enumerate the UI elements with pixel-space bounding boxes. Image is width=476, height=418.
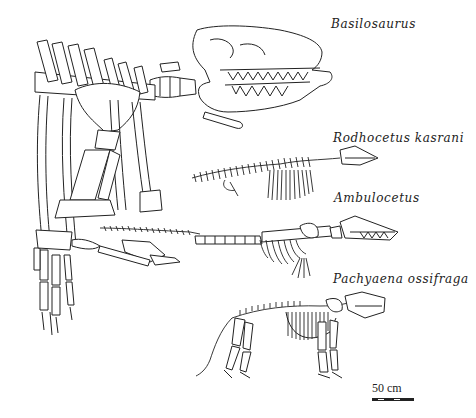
pachyaena-skeleton — [196, 292, 385, 378]
skeleton-drawings — [0, 0, 476, 418]
label-basilosaurus: Basilosaurus — [331, 17, 416, 31]
basilosaurus-skeleton — [34, 26, 332, 335]
scale-bar — [372, 398, 414, 401]
label-ambulocetus: Ambulocetus — [334, 191, 420, 205]
ambulocetus-skeleton — [72, 216, 398, 278]
scale-bar-label: 50 cm — [372, 381, 402, 396]
label-rodhocetus: Rodhocetus kasrani — [333, 131, 464, 145]
label-pachyaena: Pachyaena ossifraga — [333, 272, 469, 286]
